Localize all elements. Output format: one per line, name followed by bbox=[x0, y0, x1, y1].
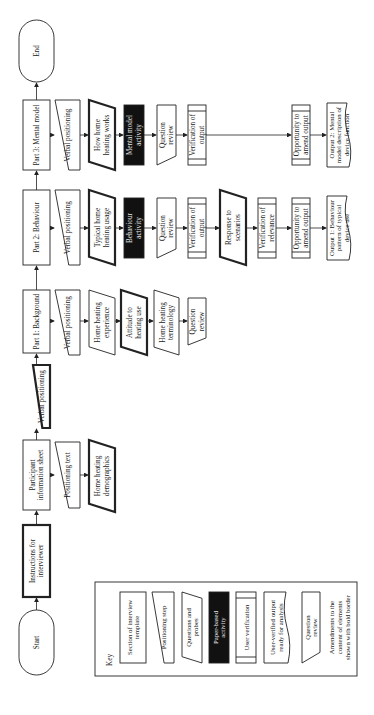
part3-works-node-label: How homeheating works bbox=[94, 115, 111, 156]
part3-review-node-label: Questionreview bbox=[159, 122, 176, 148]
flowchart-stage: StartInstructions forinterviewerParticip… bbox=[0, 0, 374, 715]
legend-item-7: Questionreview bbox=[302, 592, 320, 663]
part2-scenarios-node: Response toscenarios bbox=[220, 190, 246, 265]
positioning-text-node: Positioning text bbox=[55, 442, 80, 508]
legend-item-8: Amendments to thecontent of elementsshow… bbox=[328, 594, 351, 659]
home-heating-demographics-node-label: Home heatingdemographics bbox=[94, 455, 111, 496]
start-node: Start bbox=[19, 610, 54, 675]
part2-output-node: Output 1: Behaviourpattern of typicaldev… bbox=[327, 196, 351, 260]
part1-terminology-node: Home heatingterminology bbox=[154, 290, 179, 355]
part2-verbal-node-label: Verbal positioning bbox=[64, 201, 72, 254]
instructions-node-label: Instructions forinterviewer bbox=[29, 538, 46, 583]
end-node-label: End bbox=[33, 45, 41, 57]
part2-amend-node-label: Opportunity toamend output bbox=[293, 206, 310, 249]
part1-verbal-node-label: Verbal positioning bbox=[64, 296, 72, 349]
part3-verbal-node: Verbal positioning bbox=[55, 100, 80, 170]
legend-item-5: User verification bbox=[236, 592, 256, 663]
part3-works-node: How homeheating works bbox=[89, 100, 115, 170]
part3-amend-node-label: Opportunity toamend output bbox=[293, 113, 310, 156]
part1-node: Part 1: Background bbox=[23, 290, 50, 353]
end-node: End bbox=[19, 20, 54, 82]
part3-activity-node: Mental modelactivity bbox=[124, 105, 144, 165]
part2-usage-node: Typical homeheating usage bbox=[89, 190, 115, 265]
participant-info-node: Participantinformation sheet bbox=[23, 440, 50, 510]
legend-item-8-label: Amendments to thecontent of elementsshow… bbox=[328, 594, 351, 659]
legend-title: Key bbox=[106, 654, 114, 666]
part2-verbal-node: Verbal positioning bbox=[55, 190, 80, 265]
part3-output-node: Output 2: Mentalmodel description ofdevi… bbox=[327, 103, 351, 167]
part2-scenarios-node-label: Response toscenarios bbox=[225, 210, 242, 245]
part1-attitude-node-label: Attitude toheating use bbox=[126, 306, 143, 339]
part2-verification-node: Verification ofoutput bbox=[188, 198, 206, 258]
start-node-label: Start bbox=[33, 636, 41, 650]
legend-item-7-label: Questionreview bbox=[304, 615, 319, 640]
part3-verbal-node-label: Verbal positioning bbox=[64, 108, 72, 161]
part1-review-node: Questionreview bbox=[188, 298, 206, 345]
part3-node: Part 3: Mental model bbox=[23, 100, 50, 170]
part2-relevance-node: Verification ofrelevance bbox=[258, 198, 276, 258]
part1-attitude-node: Attitude toheating use bbox=[121, 290, 147, 355]
part3-verification-node: Verification ofoutput bbox=[188, 105, 206, 165]
part2-activity-node-label: Behaviouractivity bbox=[126, 212, 143, 243]
positioning-text-node-label: Positioning text bbox=[64, 452, 72, 497]
part3-node-label: Part 3: Mental model bbox=[33, 105, 41, 166]
part2-amend-node: Opportunity toamend output bbox=[292, 198, 310, 258]
legend-item-3: Questions andprobes bbox=[182, 592, 202, 663]
verbal-positioning-main-node-label: Verbal positioning bbox=[38, 370, 46, 423]
part2-node: Part 2: Behaviour bbox=[23, 190, 50, 265]
legend-item-6-label: User-verified outputready for analysis bbox=[269, 600, 284, 655]
part1-experience-node-label: Home heatingexperience bbox=[94, 302, 111, 343]
part1-review-node-label: Questionreview bbox=[189, 308, 206, 334]
instructions-node: Instructions forinterviewer bbox=[23, 525, 50, 597]
part1-verbal-node: Verbal positioning bbox=[55, 290, 80, 355]
legend-item-2-label: Positioning step bbox=[160, 605, 167, 649]
part3-output-node-label: Output 2: Mentalmodel description ofdevi… bbox=[328, 106, 350, 163]
nodes: StartInstructions forinterviewerParticip… bbox=[19, 20, 357, 676]
legend-item-1: Section of interviewtemplate bbox=[120, 592, 146, 663]
legend-item-5-label: User verification bbox=[243, 604, 250, 650]
part2-review-node-label: Questionreview bbox=[159, 215, 176, 241]
part2-activity-node: Behaviouractivity bbox=[124, 198, 144, 258]
part2-usage-node-label: Typical homeheating usage bbox=[94, 208, 111, 247]
part3-review-node: Questionreview bbox=[157, 105, 176, 165]
home-heating-demographics-node: Home heatingdemographics bbox=[89, 440, 115, 512]
interview-template-flowchart: StartInstructions forinterviewerParticip… bbox=[0, 0, 374, 715]
legend-key: KeySection of interviewtemplatePositioni… bbox=[95, 582, 357, 676]
part3-amend-node: Opportunity toamend output bbox=[292, 105, 310, 165]
part1-node-label: Part 1: Background bbox=[33, 293, 41, 349]
part2-node-label: Part 2: Behaviour bbox=[33, 202, 41, 253]
part1-experience-node: Home heatingexperience bbox=[89, 290, 115, 355]
verbal-positioning-main-node: Verbal positioning bbox=[33, 365, 50, 428]
part1-terminology-node-label: Home heatingterminology bbox=[159, 302, 176, 343]
part2-review-node: Questionreview bbox=[157, 198, 176, 258]
legend-item-4: Paper-basedactivity bbox=[209, 592, 229, 663]
